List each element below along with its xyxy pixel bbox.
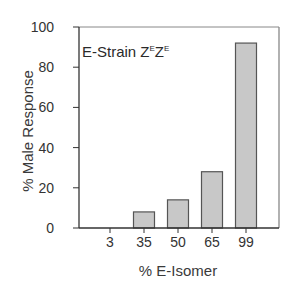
bar-35 bbox=[134, 212, 155, 228]
x-tick-label: 50 bbox=[170, 234, 186, 250]
y-tick-label: 20 bbox=[38, 180, 54, 196]
x-tick-label: 3 bbox=[106, 234, 114, 250]
x-axis-label: % E-Isomer bbox=[139, 262, 217, 279]
bar-99 bbox=[236, 43, 257, 228]
bar-50 bbox=[168, 200, 189, 228]
bar-chart: % Male Response % E-Isomer E-Strain ZEZE… bbox=[0, 0, 296, 299]
y-tick-label: 80 bbox=[38, 59, 54, 75]
y-axis-label: % Male Response bbox=[19, 70, 36, 192]
x-tick-label: 99 bbox=[238, 234, 254, 250]
chart-annotation: E-Strain ZEZE bbox=[82, 43, 169, 60]
x-tick-label: 65 bbox=[204, 234, 220, 250]
bar-65 bbox=[202, 172, 223, 228]
y-tick-label: 60 bbox=[38, 99, 54, 115]
y-tick-label: 0 bbox=[46, 220, 54, 236]
x-tick-label: 35 bbox=[136, 234, 152, 250]
y-tick-label: 100 bbox=[31, 19, 54, 35]
y-tick-label: 40 bbox=[38, 140, 54, 156]
